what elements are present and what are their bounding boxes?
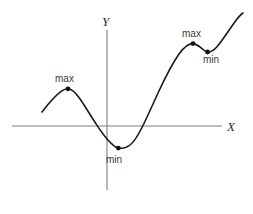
min-bottom-marker-dot xyxy=(116,146,121,151)
max-right-marker-dot xyxy=(191,41,196,46)
x-axis-label: X xyxy=(227,120,235,133)
max-left-label: max xyxy=(55,74,74,84)
curve-extrema-figure: Y X max min max min xyxy=(0,0,253,214)
max-right-label: max xyxy=(182,29,201,39)
y-axis-label: Y xyxy=(102,15,109,28)
min-bottom-label: min xyxy=(106,155,122,165)
plot-canvas xyxy=(0,0,253,214)
min-right-label: min xyxy=(203,55,219,65)
max-left-marker-dot xyxy=(66,86,71,91)
